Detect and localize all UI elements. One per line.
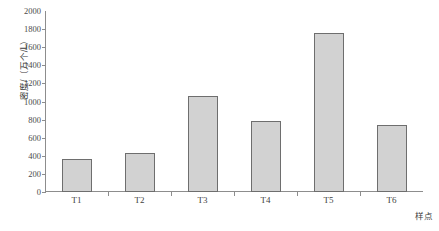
y-tick-mark: [42, 102, 46, 103]
x-tick-label-t2: T2: [135, 195, 145, 205]
x-tick-label-t3: T3: [198, 195, 208, 205]
x-tick-mark: [297, 192, 298, 196]
x-tick-label-t4: T4: [261, 195, 271, 205]
y-tick-mark: [42, 47, 46, 48]
plot-area: [45, 11, 423, 192]
x-tick-mark: [108, 192, 109, 196]
x-tick-label-t5: T5: [324, 195, 334, 205]
bar-t3: [188, 96, 218, 192]
bar-t2: [125, 153, 155, 192]
y-axis-tick-labels: 0200400600800100012001400160018002000: [8, 0, 41, 231]
y-tick-label: 0: [8, 187, 41, 197]
y-tick-mark: [42, 29, 46, 30]
bar-t4: [251, 121, 281, 192]
bar-chart-figure: 密度/（万个/L） 020040060080010001200140016001…: [0, 0, 439, 231]
y-tick-label: 1000: [8, 97, 41, 107]
y-tick-mark: [42, 83, 46, 84]
y-tick-mark: [42, 65, 46, 66]
y-tick-label: 800: [8, 115, 41, 125]
bar-t6: [377, 125, 407, 192]
y-tick-label: 200: [8, 169, 41, 179]
y-tick-label: 1400: [8, 60, 41, 70]
x-axis-title: 样点: [415, 209, 433, 221]
y-tick-mark: [42, 174, 46, 175]
x-tick-mark: [234, 192, 235, 196]
x-tick-label-t6: T6: [387, 195, 397, 205]
y-tick-label: 600: [8, 133, 41, 143]
y-tick-mark: [42, 138, 46, 139]
y-tick-label: 400: [8, 151, 41, 161]
y-tick-mark: [42, 192, 46, 193]
y-tick-label: 1800: [8, 24, 41, 34]
y-tick-mark: [42, 156, 46, 157]
y-tick-label: 1200: [8, 78, 41, 88]
y-tick-label: 2000: [8, 6, 41, 16]
y-tick-mark: [42, 120, 46, 121]
bar-t5: [314, 33, 344, 192]
y-tick-label: 1600: [8, 42, 41, 52]
bar-t1: [62, 159, 92, 192]
x-tick-mark: [360, 192, 361, 196]
x-tick-mark: [171, 192, 172, 196]
x-tick-label-t1: T1: [72, 195, 82, 205]
